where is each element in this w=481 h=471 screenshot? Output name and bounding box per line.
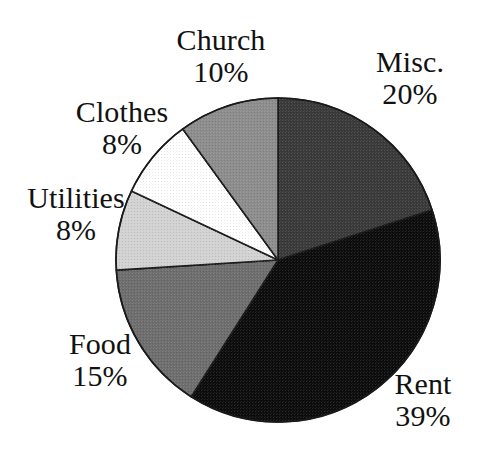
slice-label-clothes-value: 8% (56, 128, 188, 160)
slice-label-rent: Rent 39% (368, 368, 478, 432)
slice-label-misc-name: Misc. (348, 46, 472, 78)
slice-label-food-value: 15% (42, 360, 158, 392)
slice-label-church-name: Church (156, 24, 286, 56)
slice-label-misc-value: 20% (348, 78, 472, 110)
slice-label-utilities-name: Utilities (6, 182, 146, 214)
slice-label-clothes-name: Clothes (56, 96, 188, 128)
slice-label-food: Food 15% (42, 328, 158, 392)
slice-label-food-name: Food (42, 328, 158, 360)
slice-label-rent-value: 39% (368, 400, 478, 432)
pie-chart-figure: Church 10% Misc. 20% Clothes 8% Utilitie… (0, 0, 481, 471)
slice-label-rent-name: Rent (368, 368, 478, 400)
slice-label-misc: Misc. 20% (348, 46, 472, 110)
slice-label-clothes: Clothes 8% (56, 96, 188, 160)
slice-label-church: Church 10% (156, 24, 286, 88)
slice-label-church-value: 10% (156, 56, 286, 88)
slice-label-utilities-value: 8% (6, 214, 146, 246)
slice-label-utilities: Utilities 8% (6, 182, 146, 246)
